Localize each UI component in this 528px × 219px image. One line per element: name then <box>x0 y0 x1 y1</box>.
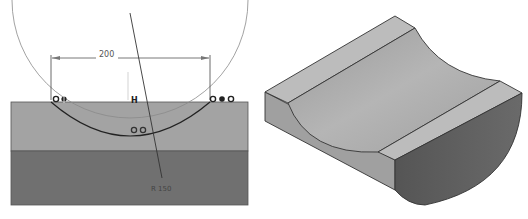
coincident-constraint-icon[interactable] <box>140 127 145 132</box>
sketch-view: 200 R 150 H <box>0 0 260 219</box>
radius-dimension[interactable]: R 150 <box>151 185 171 193</box>
dimension-200[interactable]: 200 <box>99 50 114 59</box>
coincident-constraint-icon[interactable] <box>228 96 233 101</box>
coincident-constraint-icon[interactable] <box>210 96 215 101</box>
arrow-right-icon <box>201 56 209 60</box>
upper-band <box>11 102 248 151</box>
isometric-canvas <box>260 0 528 219</box>
sketch-canvas: 200 R 150 H <box>0 0 260 219</box>
isometric-view <box>260 0 528 219</box>
horizontal-constraint-icon[interactable]: H <box>131 96 138 105</box>
fix-constraint-icon[interactable] <box>219 96 225 102</box>
coincident-constraint-icon[interactable] <box>53 96 58 101</box>
arrow-left-icon <box>52 56 60 60</box>
lower-band <box>11 151 248 205</box>
coincident-constraint-icon[interactable] <box>131 127 136 132</box>
